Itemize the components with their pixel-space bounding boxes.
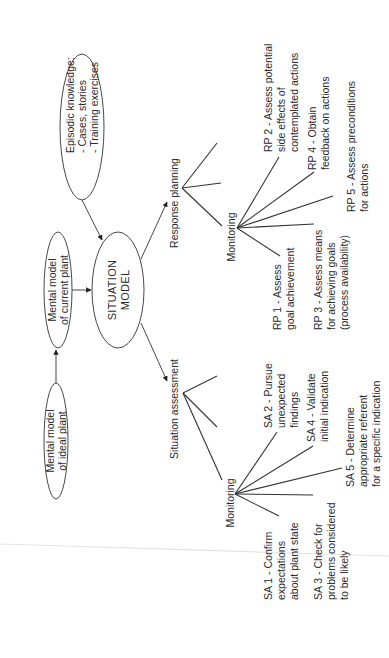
sa3-connector (235, 494, 313, 495)
situation-model-ellipse (92, 232, 144, 348)
sa3-item: SA 3 - Check for problems considered to … (312, 502, 350, 600)
ideal-plant-label-line1: Mental model (44, 409, 56, 472)
current-plant-label-line1: Mental model (46, 258, 58, 321)
sa2-connector (235, 432, 277, 494)
response-planning-label: Response planning (168, 158, 180, 248)
rp4-line1: RP 4 - Obtain (306, 106, 318, 170)
sa5-line1: SA 5 - Determine (344, 407, 356, 487)
episodic-label-line3: - Training exercises (88, 62, 100, 153)
sa1-item: SA 1 - Confirm expectations about plant … (262, 522, 300, 600)
sa1-connector (235, 494, 279, 516)
sa2-item: SA 2 - Pursue unexpected findings (262, 363, 300, 428)
sa2-line2: unexpected (275, 374, 287, 428)
rp-to-monitoring (182, 188, 222, 226)
sa5-line3: for a specific indication (370, 381, 382, 487)
rp1-connector (237, 228, 280, 256)
edge-situation-to-response (141, 202, 167, 259)
sa3-line1: SA 3 - Check for (312, 523, 324, 600)
rp3-line3: (process availability) (338, 235, 350, 330)
node-situation-model: SITUATION MODEL (92, 232, 144, 348)
sa4-connector (235, 446, 313, 494)
situation-assessment-label: Situation assessment (168, 359, 180, 459)
sa-monitoring-label: Monitoring (224, 478, 236, 527)
sa5-line2: appropriate referent (357, 395, 369, 487)
rp-stub-2 (182, 183, 221, 188)
sa5-item: SA 5 - Determine appropriate referent fo… (344, 381, 382, 487)
rp2-line3: contemplated actions (288, 53, 300, 152)
episodic-label-line1: Episodic knowledge: (64, 57, 76, 153)
node-episodic-knowledge: Episodic knowledge: - Cases, stories - T… (60, 54, 104, 200)
rp4-line2: feedback on actions (319, 77, 331, 170)
situation-assessment-group: Situation assessment Monitoring SA 1 - C… (168, 359, 382, 600)
rp-stub-1 (182, 143, 217, 188)
sa4-line1: SA 4 - Validate (305, 373, 317, 442)
edge-situation-to-assessment (141, 323, 167, 381)
edge-episodic-to-situation (82, 200, 102, 240)
node-ideal-plant: Mental model of ideal plant (44, 383, 68, 499)
rp2-item: RP 2 - Assess potential side effects of … (262, 44, 300, 152)
current-plant-label-line2: of current plant (58, 255, 70, 325)
rp5-line2: for actions (358, 164, 370, 212)
ideal-plant-label-line2: of ideal plant (56, 411, 68, 471)
rp1-item: RP 1 - Assess goal achievement (271, 248, 296, 330)
response-planning-group: Response planning Monitoring RP 1 - Asse… (168, 44, 370, 330)
sa3-line3: to be likely (338, 550, 350, 600)
sa4-item: SA 4 - Validate initial indication (305, 371, 330, 442)
rp3-item: RP 3 - Assess means for achieving goals … (312, 230, 350, 330)
sa1-line2: expectations (275, 541, 287, 600)
sa3-line2: problems considered (325, 502, 337, 600)
sa-to-monitoring (183, 393, 222, 480)
rp2-connector (237, 157, 279, 228)
rp4-connector (237, 172, 314, 228)
diagram-canvas: Mental model of ideal plant Mental model… (0, 0, 389, 658)
rp-monitoring-label: Monitoring (225, 212, 237, 261)
sa1-line1: SA 1 - Confirm (262, 531, 274, 600)
rp1-line2: goal achievement (284, 248, 296, 330)
rp3-line1: RP 3 - Assess means (312, 230, 324, 330)
sa1-line3: about plant state (288, 522, 300, 600)
rp5-connector (237, 196, 333, 228)
rp1-line1: RP 1 - Assess (271, 264, 283, 330)
node-current-plant: Mental model of current plant (44, 232, 72, 348)
sa2-line3: findings (288, 392, 300, 428)
rp4-item: RP 4 - Obtain feedback on actions (306, 77, 331, 170)
sa-stub-2 (183, 393, 217, 427)
rp2-line2: side effects of (275, 87, 287, 152)
sa2-line1: SA 2 - Pursue (262, 363, 274, 428)
rp3-line2: for achieving goals (325, 242, 337, 330)
situation-model-label-line2: MODEL (119, 270, 131, 311)
episodic-label-line2: - Cases, stories (76, 80, 88, 153)
situation-model-label-line1: SITUATION (106, 260, 118, 321)
sa4-line2: initial indication (318, 371, 330, 442)
rp5-item: RP 5 - Assess preconditions for actions (345, 81, 370, 212)
sa5-connector (235, 468, 342, 494)
rp5-line1: RP 5 - Assess preconditions (345, 81, 357, 212)
rp2-line1: RP 2 - Assess potential (262, 44, 274, 152)
sa-stub-1 (183, 376, 217, 393)
